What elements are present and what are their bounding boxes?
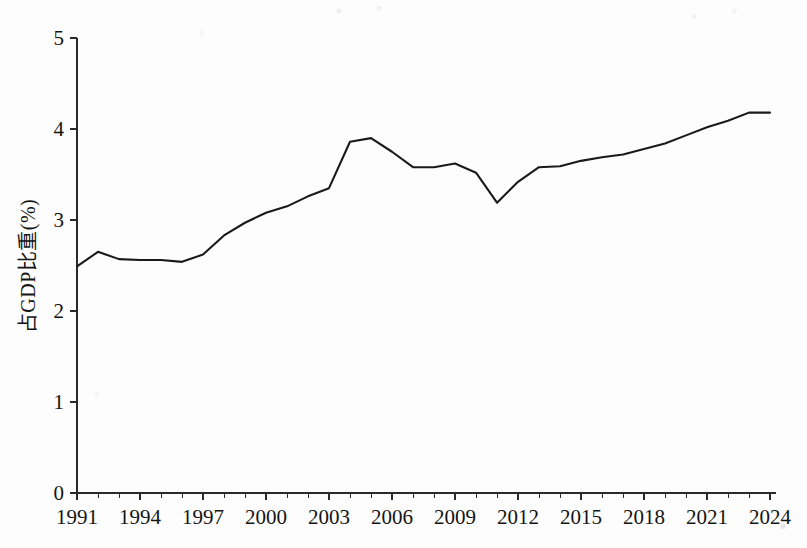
x-tick-label: 2024 [749,505,791,530]
data-series-line [77,113,770,267]
x-tick-label: 1994 [119,505,161,530]
tick-marks-group [70,38,770,500]
x-tick-label: 2015 [560,505,602,530]
chart-container: 012345 199119941997200020032006200920122… [0,0,807,548]
y-axis-title: 占GDP比重(%) [12,198,41,333]
x-tick-label: 2000 [245,505,287,530]
x-tick-label: 2006 [371,505,413,530]
x-tick-label: 2012 [497,505,539,530]
x-tick-label: 1997 [182,505,224,530]
x-tick-label: 2009 [434,505,476,530]
y-tick-label: 0 [0,481,64,506]
y-tick-label: 5 [0,26,64,51]
x-tick-label: 2021 [686,505,728,530]
chart-plot-area [0,0,807,548]
y-tick-label: 1 [0,390,64,415]
y-tick-label: 4 [0,117,64,142]
x-tick-label: 1991 [56,505,98,530]
x-tick-label: 2003 [308,505,350,530]
x-tick-label: 2018 [623,505,665,530]
axes-group [77,38,776,493]
